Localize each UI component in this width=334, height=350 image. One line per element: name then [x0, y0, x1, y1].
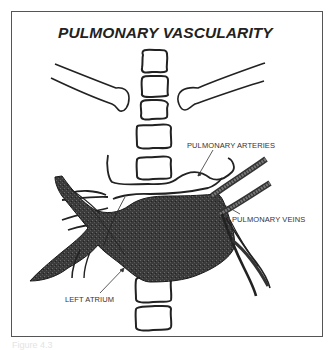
left-atrium	[30, 176, 235, 282]
label-pulmonary-arteries: PULMONARY ARTERIES	[187, 141, 275, 150]
spine-vertebrae	[136, 50, 172, 331]
label-left-atrium: LEFT ATRIUM	[65, 295, 114, 304]
label-pulmonary-veins: PULMONARY VEINS	[232, 215, 305, 224]
figure-caption: Figure 4.3	[12, 340, 53, 350]
clavicles	[51, 63, 265, 111]
